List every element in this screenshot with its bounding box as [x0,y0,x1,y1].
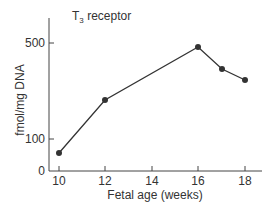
x-axis-label: Fetal age (weeks) [107,188,202,202]
data-point [102,97,108,103]
y-tick-label: 500 [25,36,45,50]
x-ticks: 10 12 14 16 18 [52,166,252,188]
x-tick-label: 18 [238,174,252,188]
data-points [56,44,248,156]
y-ticks: 500 100 0 [25,36,54,178]
data-line [59,47,245,153]
x-tick-label: 10 [52,174,66,188]
y-axis-label: fmol/mg DNA [13,64,27,135]
y-tick-label: 100 [25,132,45,146]
x-tick-label: 16 [191,174,205,188]
data-point [219,66,225,72]
x-tick-label: 12 [98,174,112,188]
chart: T3 receptor 500 100 0 10 12 14 16 18 Fet… [0,0,271,202]
data-point [56,150,62,156]
data-point [242,77,248,83]
data-point [195,44,201,50]
chart-title: T3 receptor [72,9,131,25]
y-tick-label: 0 [38,164,45,178]
x-tick-label: 14 [145,174,159,188]
